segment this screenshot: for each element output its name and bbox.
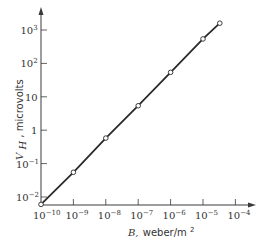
axis-ticks: 10−1010−910−810−710−610−510−410310210110…	[16, 24, 251, 221]
x-axis-label: B, weber/m 2	[127, 226, 194, 238]
x-axis-unit-exponent: 2	[190, 226, 194, 234]
data-point-marker	[136, 103, 141, 108]
y-tick-label: 10−2	[16, 191, 39, 203]
y-tick-label: 1	[31, 125, 37, 136]
data-point-marker	[39, 202, 44, 207]
x-tick-label: 10−8	[98, 209, 121, 221]
fit-line	[41, 23, 220, 204]
x-tick-label: 10−10	[33, 209, 61, 221]
x-axis-arrow-icon	[248, 203, 256, 208]
y-axis-arrow-icon	[39, 7, 44, 15]
data-point-marker	[71, 170, 76, 175]
hall-voltage-chart: 10−1010−910−810−710−610−510−410310210110…	[0, 0, 263, 243]
axes	[39, 7, 257, 208]
data-point-marker	[217, 21, 222, 26]
data-point-marker	[168, 70, 173, 75]
y-axis-subscript: H	[17, 141, 28, 151]
y-tick-label: 103	[21, 24, 38, 36]
y-axis-variable: V	[14, 151, 25, 160]
data-point-marker	[201, 37, 206, 42]
y-axis-unit: , microvolts	[14, 79, 25, 137]
x-axis-variable: B,	[127, 227, 139, 238]
x-tick-label: 10−7	[130, 209, 153, 221]
x-tick-label: 10−4	[227, 209, 251, 221]
x-axis-unit: weber/m	[143, 227, 187, 238]
y-tick-label: 10	[25, 92, 38, 103]
x-tick-label: 10−6	[163, 209, 187, 221]
y-tick-label: 102	[21, 57, 38, 69]
x-tick-label: 10−9	[65, 209, 88, 221]
data-series	[39, 21, 222, 207]
x-tick-label: 10−5	[195, 209, 218, 221]
data-point-marker	[104, 136, 109, 141]
